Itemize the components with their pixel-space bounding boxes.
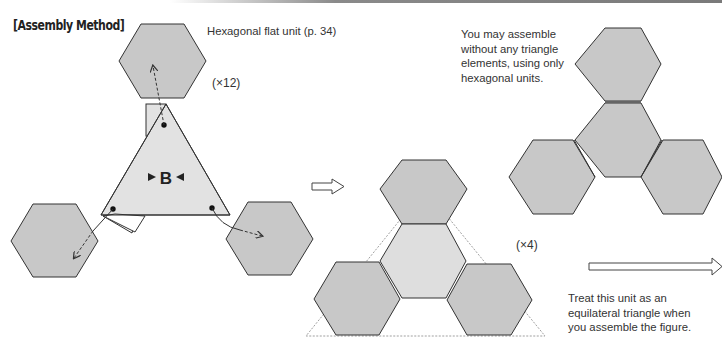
triangle-letter: B bbox=[160, 169, 172, 188]
hexagon-unit-left bbox=[11, 204, 98, 277]
hexagon-only-assembly bbox=[509, 28, 722, 214]
hollow-arrow-icon bbox=[312, 179, 344, 194]
hexagon-unit-top bbox=[119, 24, 206, 98]
assembly-diagram: B bbox=[0, 0, 722, 339]
hexagon-unit-right bbox=[226, 202, 313, 275]
long-hollow-arrow-icon bbox=[589, 258, 722, 275]
